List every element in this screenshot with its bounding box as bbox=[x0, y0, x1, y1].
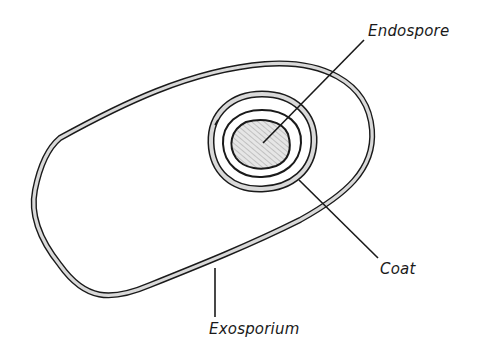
endospore-label: Endospore bbox=[368, 22, 449, 40]
core-region bbox=[231, 120, 289, 168]
coat-label: Coat bbox=[380, 260, 416, 278]
endospore-diagram bbox=[0, 0, 478, 349]
exosporium-layer bbox=[34, 64, 372, 296]
exosporium-label: Exosporium bbox=[209, 320, 300, 338]
